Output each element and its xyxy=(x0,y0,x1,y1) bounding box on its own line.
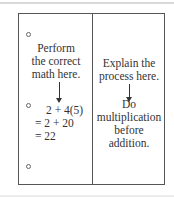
math-line: = 2 + 20 xyxy=(35,117,74,130)
math-line: 2 + 4(5) xyxy=(46,104,83,117)
instruction-line: Explain the xyxy=(93,57,165,70)
math-line: = 22 xyxy=(35,130,56,143)
right-instruction: Explain the process here. xyxy=(93,57,165,83)
punch-hole-icon xyxy=(26,32,31,37)
bottom-rule xyxy=(0,195,174,197)
left-instruction: Perform the correct math here. xyxy=(20,42,92,81)
explanation-line: before xyxy=(93,124,165,137)
top-rule xyxy=(0,2,174,4)
explanation-line: multiplication xyxy=(93,111,165,124)
down-arrow-icon xyxy=(59,82,60,99)
instruction-line: Perform xyxy=(20,42,92,55)
down-arrow-icon xyxy=(129,84,130,98)
instruction-line: the correct xyxy=(20,55,92,68)
instruction-line: process here. xyxy=(93,70,165,83)
punch-hole-icon xyxy=(26,164,31,169)
right-explanation: Do multiplication before addition. xyxy=(93,98,165,150)
instruction-line: math here. xyxy=(20,68,92,81)
punch-hole-icon xyxy=(26,103,31,108)
explanation-line: Do xyxy=(93,98,165,111)
explanation-line: addition. xyxy=(93,137,165,150)
